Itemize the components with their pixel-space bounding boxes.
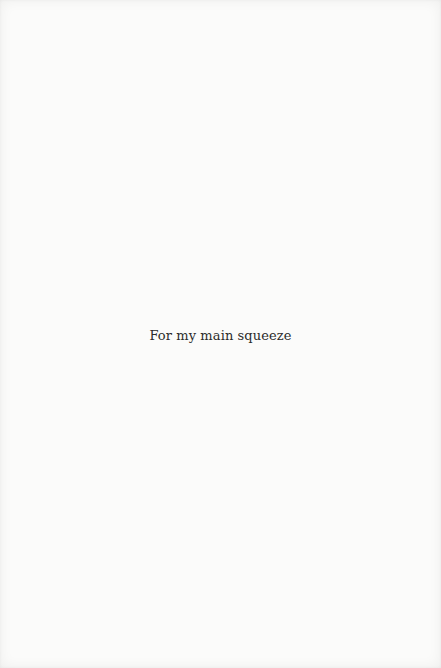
dedication-text: For my main squeeze — [0, 327, 441, 345]
dedication-page: For my main squeeze — [0, 0, 441, 668]
